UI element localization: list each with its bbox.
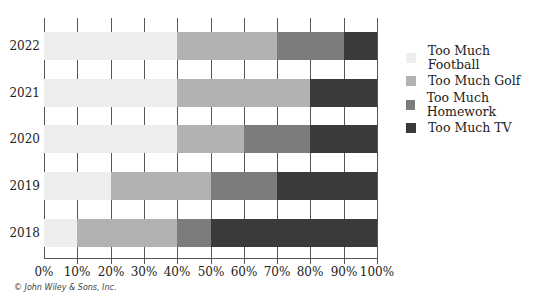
bar-segment	[177, 32, 277, 60]
legend-item: Too Much TV	[406, 117, 544, 141]
bar-segment	[77, 219, 177, 247]
legend-item: Too Much Football	[406, 46, 544, 70]
x-tick-label: 100%	[355, 265, 399, 279]
bar-segment	[44, 79, 177, 107]
legend-label: Too Much Homework	[427, 91, 544, 119]
bar-segment	[111, 172, 211, 200]
bar-segment	[277, 172, 377, 200]
bar-segment	[44, 32, 177, 60]
copyright-credit: © John Wiley & Sons, Inc.	[14, 283, 116, 292]
bar-segment	[177, 219, 211, 247]
bar-segment	[177, 79, 310, 107]
bar-segment	[277, 32, 344, 60]
gridline	[377, 18, 378, 264]
legend-label: Too Much Football	[428, 44, 544, 72]
stacked-bar-chart: Too Much FootballToo Much GolfToo Much H…	[0, 0, 544, 300]
y-category-label: 2021	[0, 86, 40, 100]
legend-label: Too Much TV	[428, 121, 512, 135]
bar-segment	[44, 125, 177, 153]
legend-swatch-icon	[406, 53, 416, 63]
bar-segment	[310, 79, 377, 107]
y-category-label: 2018	[0, 226, 40, 240]
legend-item: Too Much Homework	[406, 93, 544, 117]
bar-segment	[310, 125, 377, 153]
bar-segment	[244, 125, 310, 153]
legend: Too Much FootballToo Much GolfToo Much H…	[406, 46, 544, 140]
bar-segment	[344, 32, 377, 60]
legend-swatch-icon	[406, 100, 415, 110]
x-axis-line	[44, 258, 377, 259]
legend-label: Too Much Golf	[428, 74, 520, 88]
bar-segment	[44, 172, 111, 200]
y-category-label: 2019	[0, 179, 40, 193]
bar-segment	[44, 219, 77, 247]
bar-segment	[211, 172, 277, 200]
legend-swatch-icon	[406, 76, 416, 86]
bar-segment	[211, 219, 377, 247]
legend-swatch-icon	[406, 123, 416, 133]
y-category-label: 2020	[0, 132, 40, 146]
bar-segment	[177, 125, 244, 153]
y-category-label: 2022	[0, 39, 40, 53]
